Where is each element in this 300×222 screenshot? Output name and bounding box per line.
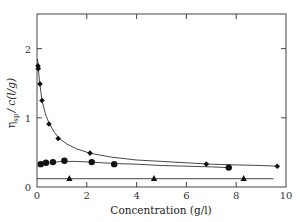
triangle-marker <box>151 175 157 181</box>
circle-marker <box>89 159 95 165</box>
chart: 0246810012 Concentration (g/l) ηsp/ c(l/… <box>0 0 300 222</box>
y-axis-title-subscript: sp <box>12 113 20 122</box>
diamond-marker <box>204 161 210 167</box>
x-tick-label: 4 <box>133 190 139 201</box>
diamond-marker <box>274 163 280 169</box>
x-tick-label: 10 <box>280 190 293 201</box>
triangle-marker <box>66 175 72 181</box>
y-tick-label: 2 <box>25 44 31 55</box>
diamond-marker <box>37 81 43 87</box>
fit-curve-circles <box>40 161 229 167</box>
x-tick-label: 2 <box>84 190 90 201</box>
x-axis-title: Concentration (g/l) <box>110 204 211 216</box>
fit-curves <box>37 59 279 179</box>
y-axis-title-rest: / c(l/g) <box>5 78 17 114</box>
circle-marker <box>226 164 232 170</box>
x-tick-label: 8 <box>233 190 239 201</box>
x-tick-label: 0 <box>34 190 40 201</box>
data-markers <box>35 63 280 181</box>
diamond-marker <box>39 98 45 104</box>
y-tick-label: 0 <box>25 182 31 193</box>
fit-curve-diamonds <box>38 59 279 166</box>
circle-marker <box>43 160 49 166</box>
diamond-marker <box>55 136 61 142</box>
diamond-marker <box>87 150 93 156</box>
circle-marker <box>61 158 67 164</box>
circle-marker <box>50 159 56 165</box>
triangle-marker <box>240 175 246 181</box>
x-tick-label: 6 <box>183 190 189 201</box>
circle-marker <box>111 161 117 167</box>
tick-labels: 0246810012 <box>25 44 293 201</box>
y-tick-label: 1 <box>25 113 31 124</box>
y-axis-title: ηsp/ c(l/g) <box>5 78 20 128</box>
